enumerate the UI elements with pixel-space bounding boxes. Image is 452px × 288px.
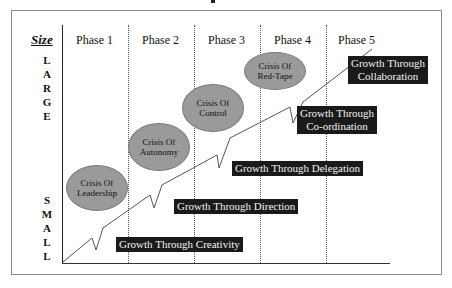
crisis-text: Red-Tape [258, 71, 293, 81]
growth-text: Growth Through Direction [177, 200, 295, 213]
growth-coordination: Growth Through Co-ordination [297, 106, 377, 134]
growth-text: Growth Through [300, 107, 374, 120]
crisis-text: Leadership [77, 188, 117, 198]
growth-text: Growth Through Delegation [235, 162, 360, 175]
crisis-text: Crisis Of [197, 98, 230, 108]
crisis-control: Crisis OfControl [182, 84, 244, 132]
crisis-leadership: Crisis OfLeadership [66, 165, 128, 211]
crisis-text: Crisis Of [77, 178, 117, 188]
crisis-red-tape: Crisis OfRed-Tape [244, 52, 306, 90]
crisis-text: Crisis Of [258, 61, 293, 71]
growth-delegation: Growth Through Delegation [232, 161, 363, 176]
growth-collaboration: Growth Through Collaboration [348, 56, 428, 84]
growth-text: Collaboration [351, 70, 425, 83]
growth-text: Co-ordination [300, 120, 374, 133]
growth-text: Growth Through [351, 57, 425, 70]
growth-direction: Growth Through Direction [174, 199, 298, 214]
crisis-text: Crisis Of [140, 137, 179, 147]
crisis-text: Autonomy [140, 147, 179, 157]
growth-text: Growth Through Creativity [119, 238, 240, 251]
crisis-text: Control [197, 108, 230, 118]
growth-creativity: Growth Through Creativity [116, 237, 243, 252]
crisis-autonomy: Crisis OfAutonomy [128, 123, 190, 171]
